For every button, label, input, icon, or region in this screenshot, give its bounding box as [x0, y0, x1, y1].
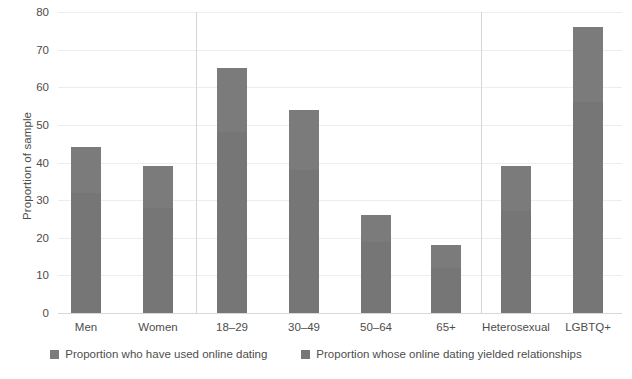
bar [289, 110, 319, 313]
gridline [58, 163, 622, 164]
gridline [58, 12, 622, 13]
x-axis-tick-label: Men [75, 321, 97, 333]
bar-segment-relationships [431, 268, 461, 313]
legend-swatch-icon [301, 350, 310, 359]
axis-baseline [58, 313, 622, 314]
bar [71, 147, 101, 313]
chart-legend: Proportion who have used online datingPr… [0, 348, 632, 360]
y-axis-tick-label: 0 [43, 307, 49, 319]
legend-item[interactable]: Proportion who have used online dating [50, 348, 267, 360]
gridline [58, 50, 622, 51]
bar [361, 215, 391, 313]
bar-chart: Proportion of sample 01020304050607080 M… [0, 0, 632, 379]
x-axis-tick-label: Heterosexual [482, 321, 550, 333]
x-axis-tick-label: LGBTQ+ [565, 321, 611, 333]
plot-area: 01020304050607080 MenWomen18–2930–4950–6… [58, 12, 622, 313]
bar-segment-relationships [217, 132, 247, 313]
bar [573, 27, 603, 313]
x-axis-tick-label: 65+ [436, 321, 456, 333]
y-axis-tick-label: 80 [36, 6, 49, 18]
bar [501, 166, 531, 313]
bar [143, 166, 173, 313]
group-divider [196, 12, 197, 313]
y-axis-tick-label: 70 [36, 44, 49, 56]
bar-segment-relationships [501, 211, 531, 313]
x-axis-tick-label: 50–64 [360, 321, 392, 333]
legend-label: Proportion who have used online dating [65, 348, 267, 360]
bar-segment-relationships [71, 193, 101, 313]
legend-item[interactable]: Proportion whose online dating yielded r… [301, 348, 581, 360]
y-axis-title: Proportion of sample [21, 86, 33, 246]
bar-segment-relationships [573, 102, 603, 313]
legend-label: Proportion whose online dating yielded r… [316, 348, 581, 360]
bar-segment-relationships [289, 170, 319, 313]
group-divider [481, 12, 482, 313]
bar [217, 68, 247, 313]
x-axis-tick-label: 18–29 [216, 321, 248, 333]
y-axis-tick-label: 20 [36, 232, 49, 244]
bar [431, 245, 461, 313]
y-axis-tick-label: 40 [36, 157, 49, 169]
y-axis-tick-label: 60 [36, 81, 49, 93]
legend-swatch-icon [50, 350, 59, 359]
bar-segment-relationships [143, 208, 173, 313]
y-axis-tick-label: 30 [36, 194, 49, 206]
gridline [58, 87, 622, 88]
x-axis-tick-label: 30–49 [288, 321, 320, 333]
y-axis-tick-label: 10 [36, 269, 49, 281]
bar-segment-relationships [361, 242, 391, 313]
x-axis-tick-label: Women [138, 321, 177, 333]
gridline [58, 125, 622, 126]
y-axis-tick-label: 50 [36, 119, 49, 131]
